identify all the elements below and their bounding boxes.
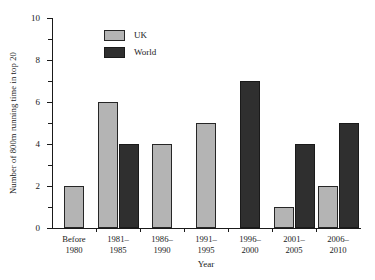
x-category-label-line: 2005: [272, 245, 316, 256]
x-category-label-line: 1980: [52, 245, 96, 256]
legend-swatch-world: [104, 47, 125, 58]
y-tick-major: 2: [47, 186, 52, 187]
x-category-label-line: 1991–: [184, 234, 228, 245]
bar-uk: [98, 102, 118, 228]
x-category-label: 1981–1985: [96, 234, 140, 256]
bar-world: [295, 144, 315, 228]
legend-item-world: World: [104, 46, 156, 59]
bar-uk: [196, 123, 216, 228]
bar-world: [119, 144, 139, 228]
y-tick-major: 0: [47, 228, 52, 229]
bar-uk: [64, 186, 84, 228]
x-category-label: 1996–2000: [228, 234, 272, 256]
y-tick-major: 6: [47, 102, 52, 103]
x-category-label: 2006–2010: [316, 234, 360, 256]
x-category-label-line: 1981–: [96, 234, 140, 245]
y-tick-major: 8: [47, 60, 52, 61]
x-tick: [140, 228, 141, 232]
y-axis-line: [52, 18, 53, 229]
legend-label-world: World: [134, 48, 156, 57]
x-category-label: Before1980: [52, 234, 96, 256]
y-tick-label: 4: [36, 140, 41, 149]
x-category-label: 2001–2005: [272, 234, 316, 256]
y-tick-label: 0: [36, 224, 41, 233]
bar-chart: Number of 800m running time in top 20 02…: [0, 0, 375, 280]
x-category-label-line: 1995: [184, 245, 228, 256]
x-axis-title: Year: [52, 259, 360, 269]
x-category-label-line: 1986–: [140, 234, 184, 245]
x-category-label-line: 1990: [140, 245, 184, 256]
chart-legend: UK World: [104, 29, 156, 63]
bar-uk: [318, 186, 338, 228]
x-category-label-line: Before: [52, 234, 96, 245]
x-tick: [184, 228, 185, 232]
x-tick: [316, 228, 317, 232]
bar-world: [339, 123, 359, 228]
x-category-label-line: 2010: [316, 245, 360, 256]
x-tick: [96, 228, 97, 232]
plot-area: 0246810 Before19801981–19851986–19901991…: [52, 18, 360, 228]
bar-uk: [152, 144, 172, 228]
x-tick: [228, 228, 229, 232]
x-tick: [272, 228, 273, 232]
legend-swatch-uk: [104, 30, 125, 41]
y-tick-major: 4: [47, 144, 52, 145]
y-tick-minor: [48, 165, 52, 166]
bar-world: [240, 81, 260, 228]
x-axis-line: [52, 228, 361, 229]
x-category-label-line: 2006–: [316, 234, 360, 245]
y-tick-label: 2: [36, 182, 41, 191]
x-category-label-line: 2001–: [272, 234, 316, 245]
y-axis-title: Number of 800m running time in top 20: [8, 18, 18, 228]
legend-item-uk: UK: [104, 29, 156, 42]
y-tick-major: 10: [47, 18, 52, 19]
legend-label-uk: UK: [134, 31, 147, 40]
y-tick-minor: [48, 39, 52, 40]
x-category-label-line: 1996–: [228, 234, 272, 245]
y-tick-label: 8: [36, 56, 41, 65]
y-tick-minor: [48, 81, 52, 82]
y-tick-minor: [48, 207, 52, 208]
x-category-label-line: 2000: [228, 245, 272, 256]
y-tick-label: 6: [36, 98, 41, 107]
y-tick-minor: [48, 123, 52, 124]
x-category-label: 1991–1995: [184, 234, 228, 256]
x-category-label-line: 1985: [96, 245, 140, 256]
x-category-label: 1986–1990: [140, 234, 184, 256]
y-tick-label: 10: [31, 14, 40, 23]
bar-uk: [274, 207, 294, 228]
